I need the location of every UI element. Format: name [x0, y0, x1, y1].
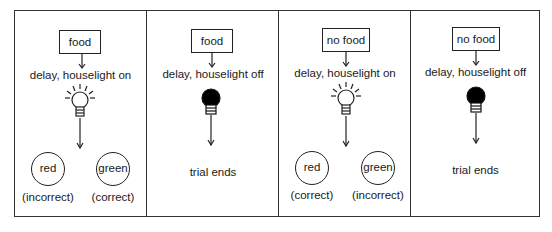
stimulus-box: food — [59, 30, 101, 54]
panel-food-light-off: food delay, houselight off trial ends — [146, 11, 278, 216]
lightbulb-on-icon — [329, 82, 363, 116]
arrow-down-icon — [343, 116, 349, 148]
choice-green: green — [96, 152, 130, 186]
arrow-down-icon — [208, 115, 214, 147]
arrow-down-icon — [79, 54, 85, 70]
lightbulb-off-icon — [200, 89, 222, 115]
diagram-frame: food delay, houselight on red green (inc… — [14, 10, 540, 217]
trial-ends-label: trial ends — [147, 166, 279, 178]
delay-label: delay, houselight on — [279, 67, 411, 79]
arrow-down-icon — [209, 53, 215, 69]
arrow-down-icon — [473, 51, 479, 67]
choice-green: green — [361, 151, 395, 185]
lightbulb-off-icon — [465, 87, 487, 113]
choice-red-result: (correct) — [282, 189, 342, 201]
arrow-down-icon — [473, 113, 479, 145]
delay-label: delay, houselight on — [15, 69, 146, 81]
stimulus-box: no food — [322, 28, 370, 52]
stimulus-box: food — [191, 29, 233, 53]
choice-red-result: (incorrect) — [18, 191, 78, 203]
choice-green-result: (correct) — [83, 191, 143, 203]
choice-green-result: (incorrect) — [345, 189, 411, 201]
trial-ends-label: trial ends — [411, 164, 540, 176]
delay-label: delay, houselight off — [147, 68, 279, 80]
choice-red: red — [31, 152, 65, 186]
panel-nofood-light-on: no food delay, houselight on red green (… — [278, 11, 410, 216]
panel-food-light-on: food delay, houselight on red green (inc… — [15, 11, 146, 216]
stimulus-box: no food — [452, 27, 500, 51]
lightbulb-on-icon — [63, 84, 97, 118]
arrow-down-icon — [77, 118, 83, 150]
panel-nofood-light-off: no food delay, houselight off trial ends — [410, 11, 539, 216]
choice-red: red — [295, 151, 329, 185]
arrow-down-icon — [343, 52, 349, 68]
delay-label: delay, houselight off — [411, 66, 540, 78]
